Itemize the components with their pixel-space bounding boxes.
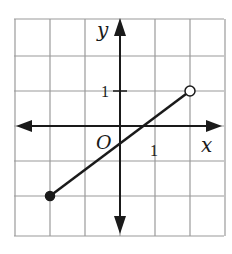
x-tick-label: 1 (150, 142, 158, 159)
open-endpoint-icon (185, 86, 195, 96)
y-axis-down-arrow-icon (114, 216, 126, 234)
closed-endpoint-icon (46, 192, 55, 201)
axes (16, 18, 222, 234)
x-axis-left-arrow-icon (16, 120, 32, 132)
origin-label: O (96, 131, 112, 153)
y-axis-label: y (96, 18, 109, 42)
y-tick-label: 1 (101, 83, 109, 100)
coordinate-plane: y x O 1 1 (0, 0, 232, 254)
x-axis-right-arrow-icon (206, 120, 222, 132)
y-axis-up-arrow-icon (114, 18, 126, 36)
x-axis-label: x (201, 133, 212, 157)
line-segment (50, 94, 186, 196)
